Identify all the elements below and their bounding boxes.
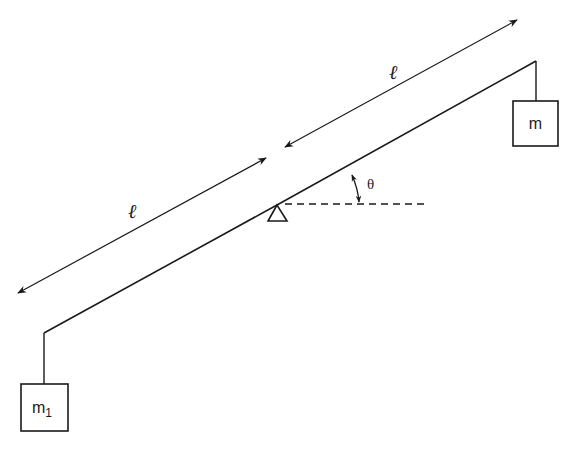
mass-left-symbol: m bbox=[32, 399, 45, 416]
length-label-upper: ℓ bbox=[389, 61, 398, 83]
beam-upper-arm bbox=[277, 61, 536, 205]
angle-theta-label: θ bbox=[367, 176, 374, 192]
lever-diagram: θ ℓ ℓ m m1 bbox=[0, 0, 577, 459]
pivot-triangle-icon bbox=[268, 205, 287, 221]
mass-left-subscript: 1 bbox=[45, 406, 52, 420]
dimension-arrow-lower bbox=[18, 158, 266, 293]
mass-right-label: m bbox=[529, 115, 542, 132]
beam-lower-arm bbox=[44, 205, 277, 333]
angle-arc bbox=[352, 175, 359, 202]
dimension-arrow-upper bbox=[285, 20, 517, 147]
length-label-lower: ℓ bbox=[128, 200, 137, 222]
